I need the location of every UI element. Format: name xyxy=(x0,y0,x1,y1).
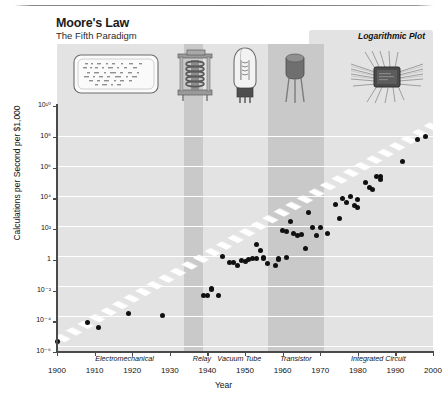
x-axis-title: Year xyxy=(0,380,447,390)
data-point xyxy=(284,229,289,234)
data-point xyxy=(337,216,342,221)
gridline xyxy=(57,346,433,347)
data-point xyxy=(96,325,101,330)
data-point xyxy=(318,225,323,230)
data-point xyxy=(355,197,360,202)
gridline xyxy=(57,226,433,227)
data-point xyxy=(378,177,383,182)
gridline xyxy=(57,256,433,257)
data-point xyxy=(314,233,319,238)
data-point xyxy=(348,194,353,199)
x-tick-label: 2000 xyxy=(413,366,447,375)
logarithmic-plot-label: Logarithmic Plot xyxy=(358,31,425,41)
era-label: Vacuum Tube xyxy=(217,354,261,363)
data-point xyxy=(258,248,263,253)
gridline xyxy=(57,196,433,197)
x-tick-label: 1990 xyxy=(375,366,415,375)
data-point xyxy=(415,137,420,142)
data-point xyxy=(325,231,330,236)
y-tick xyxy=(53,168,57,169)
data-point xyxy=(273,263,278,268)
data-point xyxy=(205,293,210,298)
data-point xyxy=(400,159,405,164)
data-point xyxy=(216,293,221,298)
figure-title: Moore's Law xyxy=(56,16,129,30)
era-label: Relay xyxy=(193,354,211,363)
data-point xyxy=(288,219,293,224)
data-point xyxy=(299,232,304,237)
y-axis-title: Calculations per Second per $1,000 xyxy=(12,78,22,268)
data-point xyxy=(423,134,428,139)
data-point xyxy=(235,263,240,268)
x-tick-label: 1940 xyxy=(187,366,227,375)
transistor-illustration xyxy=(279,48,311,104)
y-tick xyxy=(53,229,57,230)
data-point xyxy=(220,254,225,259)
x-tick xyxy=(433,352,434,356)
x-tick-label: 1930 xyxy=(150,366,190,375)
data-point xyxy=(254,242,259,247)
data-point xyxy=(355,205,360,210)
y-tick-label: 10⁻² xyxy=(13,286,51,294)
punch-card-illustration xyxy=(73,54,159,94)
moores-law-figure: Moore's Law The Fifth Paradigm Logarithm… xyxy=(0,0,447,398)
gridline xyxy=(57,136,433,137)
figure-subtitle: The Fifth Paradigm xyxy=(56,30,137,41)
y-tick xyxy=(53,106,57,107)
data-point xyxy=(85,320,90,325)
data-point xyxy=(160,313,165,318)
era-label: Electromechanical xyxy=(95,354,154,363)
x-tick-label: 1950 xyxy=(225,366,265,375)
vacuum-tube-illustration xyxy=(229,46,261,104)
plot-area xyxy=(57,106,433,352)
data-point xyxy=(333,202,338,207)
x-tick-label: 1900 xyxy=(37,366,77,375)
era-label: Integrated Circuit xyxy=(351,354,406,363)
y-tick xyxy=(53,198,57,199)
x-tick-label: 1960 xyxy=(263,366,303,375)
x-tick xyxy=(57,352,58,356)
x-tick-label: 1910 xyxy=(75,366,115,375)
x-tick-label: 1980 xyxy=(338,366,378,375)
y-tick-label: 10⁻⁶ xyxy=(13,347,51,355)
data-point xyxy=(254,256,259,261)
data-point xyxy=(209,287,214,292)
data-point xyxy=(370,187,375,192)
y-tick xyxy=(53,260,57,261)
y-tick xyxy=(53,291,57,292)
data-point xyxy=(344,200,349,205)
x-tick-label: 1970 xyxy=(300,366,340,375)
data-point xyxy=(126,311,131,316)
header-divider xyxy=(14,5,434,6)
x-tick-label: 1920 xyxy=(112,366,152,375)
era-label: Transistor xyxy=(280,354,311,363)
gridline xyxy=(57,316,433,317)
gridline xyxy=(57,286,433,287)
y-tick-label: 10⁻⁴ xyxy=(13,316,51,324)
integrated-circuit-illustration xyxy=(349,50,425,104)
y-tick xyxy=(53,321,57,322)
x-tick xyxy=(170,352,171,356)
data-point xyxy=(284,255,289,260)
gridline xyxy=(57,166,433,167)
relay-illustration xyxy=(173,48,217,104)
y-tick xyxy=(53,137,57,138)
data-point xyxy=(261,256,266,261)
x-tick xyxy=(320,352,321,356)
era-artwork-band: Logarithmic Plot xyxy=(57,44,433,106)
